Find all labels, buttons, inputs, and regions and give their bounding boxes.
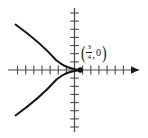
- coordinate-comma: ,: [92, 49, 95, 60]
- vertex-point-marker: [78, 67, 83, 72]
- fraction-numerator: 3: [87, 44, 93, 51]
- close-paren: ): [102, 43, 107, 62]
- fraction-denominator: 4: [87, 54, 93, 61]
- vertex-coordinate-label: ( 3 4 , 0 ): [80, 43, 107, 62]
- coordinate-plane: [0, 0, 148, 138]
- open-paren: (: [81, 43, 86, 62]
- y-coordinate-value: 0: [96, 48, 101, 58]
- parabola-figure: ( 3 4 , 0 ): [0, 0, 148, 138]
- x-axis-arrow-icon: [131, 66, 139, 74]
